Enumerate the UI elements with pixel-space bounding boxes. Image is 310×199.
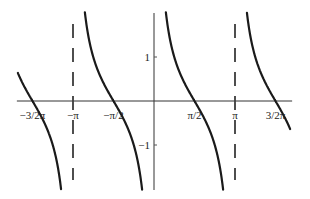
x-tick-label: π [232, 109, 238, 121]
cot-chart: −3/2π−π−π/2π/2π3/2π1−1 [0, 0, 310, 199]
y-tick-label: −1 [138, 139, 150, 151]
x-tick-label: π/2 [187, 109, 201, 121]
x-tick-label: −π/2 [103, 109, 123, 121]
x-tick-label: −π [67, 109, 79, 121]
y-tick-label: 1 [145, 51, 151, 63]
cot-branch-1 [18, 73, 61, 189]
x-tick-label: 3/2π [266, 109, 286, 121]
x-tick-label: −3/2π [20, 109, 46, 121]
